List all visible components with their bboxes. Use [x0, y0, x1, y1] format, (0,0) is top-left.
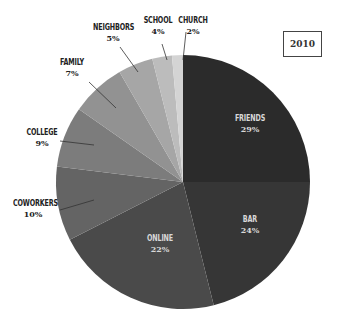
label-college: COLLEGE 9%: [22, 128, 62, 148]
label-pct: 24%: [230, 225, 270, 235]
label-name: COWORKERS: [13, 199, 53, 209]
label-pct: 2%: [173, 26, 213, 36]
label-pct: 10%: [8, 209, 58, 219]
label-name: SCHOOL: [142, 16, 174, 26]
label-name: COLLEGE: [26, 128, 58, 138]
label-coworkers: COWORKERS 10%: [8, 199, 58, 219]
label-pct: 4%: [138, 26, 178, 36]
label-family: FAMILY 7%: [52, 58, 92, 78]
label-name: BAR: [234, 215, 266, 225]
label-church: CHURCH 2%: [173, 16, 213, 36]
label-neighbors: NEIGHBORS 5%: [88, 23, 138, 43]
label-online: ONLINE 22%: [135, 234, 185, 254]
label-name: NEIGHBORS: [93, 23, 133, 33]
label-pct: 29%: [225, 124, 275, 134]
label-bar: BAR 24%: [230, 215, 270, 235]
label-school: SCHOOL 4%: [138, 16, 178, 36]
label-pct: 22%: [135, 244, 185, 254]
label-name: FRIENDS: [230, 114, 270, 124]
label-friends: FRIENDS 29%: [225, 114, 275, 134]
label-pct: 7%: [52, 68, 92, 78]
label-pct: 9%: [22, 138, 62, 148]
label-name: FAMILY: [56, 58, 88, 68]
label-pct: 5%: [88, 33, 138, 43]
label-name: CHURCH: [177, 16, 209, 26]
year-annotation-box: 2010: [283, 31, 322, 57]
pie-slices: [56, 55, 310, 309]
label-name: ONLINE: [140, 234, 180, 244]
